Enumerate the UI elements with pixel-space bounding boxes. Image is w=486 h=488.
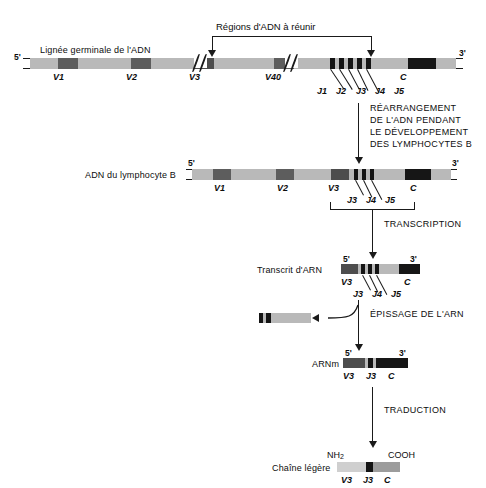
- light-chain-label-J3: J3: [363, 475, 373, 485]
- protein-segment-C: [373, 462, 400, 472]
- step-rearrangement-line-1: RÉARRANGEMENT: [370, 103, 456, 113]
- rna-five-prime: 5': [343, 254, 350, 264]
- segment-J3: [348, 58, 353, 69]
- rna-segment-J3: [361, 264, 365, 274]
- protein-segment-J3: [366, 462, 373, 472]
- light-chain-label: Chaîne légère: [272, 463, 331, 473]
- mrna-five-prime: 5': [345, 348, 352, 358]
- rna-label-J4: J4: [372, 289, 382, 299]
- germline-label-V3: V3: [189, 72, 200, 82]
- segment-C: [408, 58, 436, 69]
- germline-dna-bar: [30, 58, 456, 69]
- step-splicing: ÉPISSAGE DE L'ARN: [370, 309, 464, 319]
- step-rearrangement-line-4: DES LYMPHOCYTES B: [370, 139, 472, 149]
- bcell-segment-J3: [354, 169, 358, 180]
- segment-J1: [330, 58, 335, 69]
- bcell-five-prime: 5': [188, 158, 195, 168]
- rna-transcript-bar: [341, 264, 420, 274]
- translation-arrow-stem: [372, 387, 373, 443]
- bcell-label-V1: V1: [214, 183, 225, 193]
- bracket-left-arrowhead: [208, 50, 216, 57]
- mrna-segment-V3: [343, 358, 365, 368]
- nh2-text: NH: [327, 450, 340, 460]
- regions-to-join-title: Régions d'ADN à réunir: [216, 21, 316, 32]
- germline-break-1: [194, 54, 207, 72]
- germline-label-V2: V2: [126, 72, 137, 82]
- bcell-segment-V1: [213, 169, 231, 180]
- figure-canvas: Régions d'ADN à réunir Lignée germinale …: [0, 0, 486, 488]
- segment-V2: [131, 58, 151, 69]
- step-transcription: TRANSCRIPTION: [384, 219, 461, 229]
- light-chain-label-C: C: [384, 475, 391, 485]
- rna-segment-V3: [341, 264, 358, 274]
- mrna-label-V3: V3: [343, 371, 354, 381]
- mrna-segment-J3: [368, 358, 373, 368]
- bcell-transcription-bracket: [330, 202, 415, 210]
- light-chain-label-V3: V3: [341, 475, 352, 485]
- mrna-segment-C: [376, 358, 408, 368]
- bcell-three-prime: 3': [452, 158, 459, 168]
- germline-right-stub: [456, 58, 463, 69]
- bcell-leader-J3: [355, 180, 364, 195]
- bcell-dna-bar: [192, 169, 451, 180]
- rearrangement-arrowhead: [355, 157, 363, 164]
- germline-label-V40: V40: [265, 72, 281, 82]
- splicing-arrowhead: [355, 344, 363, 351]
- bcell-segment-J5: [370, 169, 374, 180]
- segment-J4: [357, 58, 362, 69]
- germline-label-J5: J5: [394, 86, 404, 96]
- germline-label-J4: J4: [375, 86, 385, 96]
- rna-segment-J5: [375, 264, 379, 274]
- step-translation: TRADUCTION: [384, 405, 446, 415]
- transcription-arrow-stem: [372, 210, 373, 254]
- bcell-segment-V3: [331, 169, 349, 180]
- bcell-segment-J4: [362, 169, 366, 180]
- transcription-arrowhead: [369, 252, 377, 259]
- splicing-branch-arrowhead: [312, 314, 319, 322]
- rna-segment-C: [399, 264, 420, 274]
- bracket-right-arrowhead: [367, 50, 375, 57]
- segment-J2: [339, 58, 344, 69]
- light-chain-n-terminus: NH2: [327, 450, 344, 460]
- step-rearrangement-line-2: DE L'ADN PENDANT: [370, 115, 461, 125]
- bcell-segment-C: [405, 169, 431, 180]
- rna-label-C: C: [404, 277, 411, 287]
- germline-label-J1: J1: [317, 86, 327, 96]
- germline-label-J3: J3: [356, 86, 366, 96]
- excised-segment-J5: [266, 313, 271, 323]
- excised-rna-fragment: [259, 313, 311, 323]
- bcell-label-V3: V3: [328, 183, 339, 193]
- mrna-bar: [343, 358, 408, 368]
- mrna-three-prime: 3': [399, 348, 406, 358]
- rearrangement-arrow-stem: [358, 103, 359, 159]
- rna-three-prime: 3': [410, 254, 417, 264]
- rna-label-V3: V3: [341, 277, 352, 287]
- rna-label-J3: J3: [353, 289, 363, 299]
- germline-label-V1: V1: [53, 72, 64, 82]
- light-chain-bar: [337, 462, 400, 472]
- step-rearrangement-line-3: LE DÉVELOPPEMENT: [370, 127, 468, 137]
- light-chain-c-terminus: COOH: [388, 450, 415, 460]
- bcell-label-C: C: [410, 183, 417, 193]
- germline-dna-label: Lignée germinale de l'ADN: [40, 45, 151, 55]
- protein-segment-V3: [337, 462, 366, 472]
- segment-V1: [58, 58, 78, 69]
- germline-left-stub: [23, 58, 30, 69]
- excised-segment-J4: [259, 313, 263, 323]
- nh2-subscript: 2: [340, 453, 344, 460]
- mrna-label-C: C: [388, 371, 395, 381]
- germline-label-C: C: [400, 72, 407, 82]
- germline-five-prime: 5': [14, 52, 21, 62]
- germline-label-J2: J2: [336, 86, 346, 96]
- rna-transcript-label: Transcrit d'ARN: [257, 265, 322, 275]
- translation-arrowhead: [369, 441, 377, 448]
- bcell-segment-V2: [276, 169, 294, 180]
- segment-J5: [366, 58, 371, 69]
- mrna-label: ARNm: [312, 359, 339, 369]
- rna-label-J5: J5: [391, 289, 401, 299]
- rna-segment-J4: [368, 264, 372, 274]
- bcell-right-stub: [450, 169, 457, 180]
- regions-to-join-bracket: [212, 36, 372, 46]
- mrna-label-J3: J3: [366, 371, 376, 381]
- germline-break-2: [285, 54, 298, 72]
